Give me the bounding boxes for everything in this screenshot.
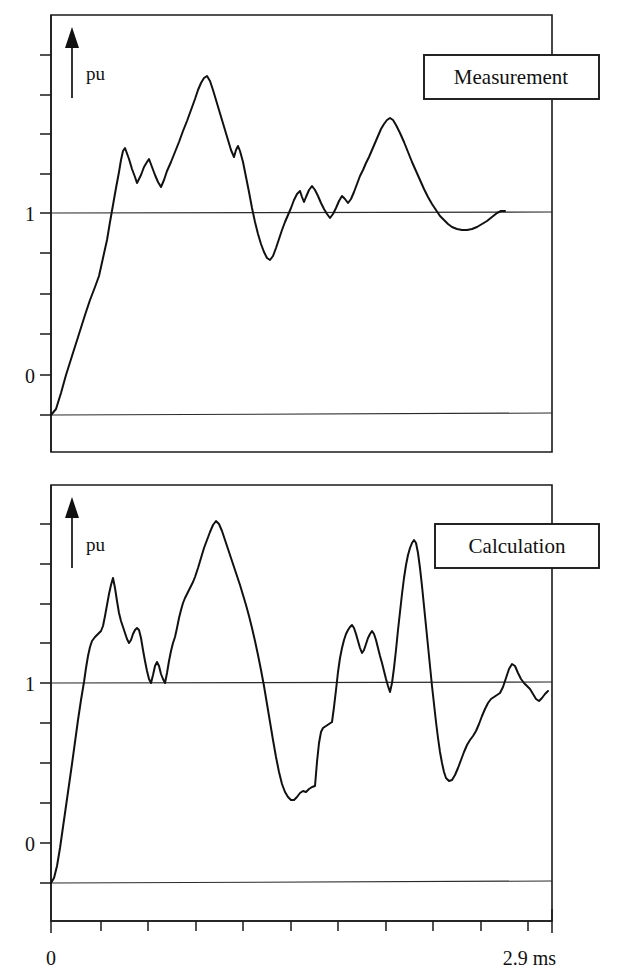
measurement-y-label-zero: 0 xyxy=(25,365,35,387)
calculation-reference-line-one xyxy=(51,682,552,683)
measurement-baseline xyxy=(51,413,552,415)
measurement-y-label-one: 1 xyxy=(25,203,35,225)
x-axis-end-label: 2.9 ms xyxy=(503,947,557,969)
calculation-unit-label: pu xyxy=(86,534,106,555)
panel-calculation: 1 0 pu Calculation 0 2.9 ms xyxy=(25,485,599,969)
measurement-label-text: Measurement xyxy=(454,65,568,89)
calculation-trace xyxy=(51,521,548,883)
calculation-label-text: Calculation xyxy=(469,534,566,558)
measurement-y-ticks xyxy=(40,55,51,415)
measurement-trace xyxy=(51,76,505,415)
calculation-y-ticks xyxy=(40,524,51,883)
measurement-label-box: Measurement xyxy=(424,55,599,99)
x-axis-start-label: 0 xyxy=(46,947,56,969)
panel-measurement: 1 0 pu Measurement xyxy=(25,15,599,452)
calculation-baseline xyxy=(51,881,552,883)
figure-container: 1 0 pu Measurement xyxy=(0,0,628,979)
waveform-figure: 1 0 pu Measurement xyxy=(0,0,628,979)
measurement-pu-arrow-icon xyxy=(65,27,79,98)
measurement-unit-label: pu xyxy=(86,63,106,84)
calculation-y-label-one: 1 xyxy=(25,673,35,695)
calculation-y-label-zero: 0 xyxy=(25,833,35,855)
calculation-label-box: Calculation xyxy=(435,524,599,568)
calculation-pu-arrow-icon xyxy=(65,497,79,568)
measurement-reference-line-one xyxy=(51,212,552,213)
